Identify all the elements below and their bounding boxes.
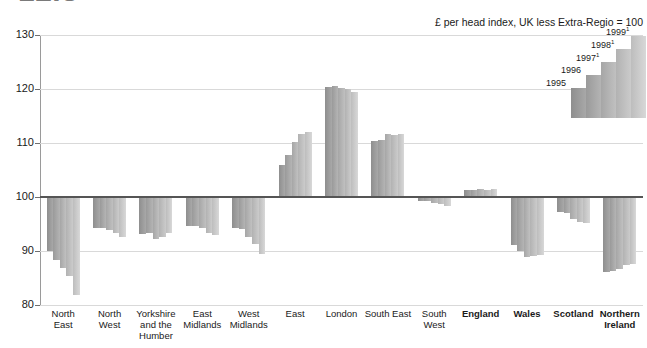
y-axis-tick-label: 90 bbox=[2, 245, 34, 256]
baseline-100 bbox=[40, 196, 643, 198]
chart-legend: 19951996199711998119991 bbox=[541, 36, 643, 118]
bar bbox=[113, 197, 120, 233]
bar bbox=[232, 197, 239, 228]
bar bbox=[66, 197, 73, 276]
bar bbox=[332, 86, 339, 197]
bar bbox=[438, 197, 445, 204]
category-label: NorthernIreland bbox=[591, 308, 647, 330]
bar bbox=[186, 197, 193, 226]
bar bbox=[73, 197, 80, 295]
bar bbox=[385, 134, 392, 197]
legend-swatch bbox=[601, 62, 616, 118]
legend-swatch bbox=[586, 75, 601, 118]
bar bbox=[239, 197, 246, 229]
bar bbox=[577, 197, 584, 222]
bar bbox=[610, 197, 617, 271]
bar-group bbox=[279, 35, 312, 305]
y-axis-tick-label: 100 bbox=[2, 191, 34, 202]
legend-label: 19981 bbox=[591, 39, 614, 50]
bar bbox=[279, 165, 286, 197]
bar bbox=[53, 197, 60, 260]
bar-group bbox=[47, 35, 80, 305]
bar bbox=[524, 197, 531, 257]
bar bbox=[338, 88, 345, 197]
bar-group bbox=[418, 35, 451, 305]
bar bbox=[139, 197, 146, 234]
y-axis-tick bbox=[35, 305, 40, 306]
bar bbox=[371, 141, 378, 197]
chart-figure: 12.3 £ per head index, UK less Extra-Reg… bbox=[0, 0, 647, 348]
bar bbox=[398, 134, 405, 197]
legend-label: 1996 bbox=[561, 65, 581, 75]
bar bbox=[530, 197, 537, 256]
legend-swatch bbox=[616, 49, 631, 118]
bar bbox=[623, 197, 630, 265]
y-axis-tick bbox=[35, 143, 40, 144]
bar bbox=[537, 197, 544, 255]
bar bbox=[630, 197, 637, 264]
bar bbox=[252, 197, 259, 244]
legend-label: 19991 bbox=[606, 26, 629, 37]
bar bbox=[564, 197, 571, 213]
bar bbox=[100, 197, 107, 228]
bar bbox=[47, 197, 54, 251]
bar-group bbox=[232, 35, 265, 305]
bar bbox=[146, 197, 153, 233]
bar bbox=[345, 89, 352, 197]
bar bbox=[192, 197, 199, 226]
bar bbox=[444, 197, 451, 206]
y-axis-tick-label: 80 bbox=[2, 299, 34, 310]
legend-swatch bbox=[631, 36, 646, 118]
legend-label: 1995 bbox=[546, 78, 566, 88]
y-axis-tick bbox=[35, 35, 40, 36]
bar bbox=[603, 197, 610, 272]
bar bbox=[616, 197, 623, 269]
bar-group bbox=[186, 35, 219, 305]
bar bbox=[93, 197, 100, 228]
category-axis-labels: NorthEastNorthWestYorkshireand theHumber… bbox=[40, 308, 643, 348]
y-axis-line bbox=[40, 35, 41, 305]
bar bbox=[259, 197, 266, 254]
y-axis-tick bbox=[35, 89, 40, 90]
bar-group bbox=[93, 35, 126, 305]
bar bbox=[557, 197, 564, 212]
bar bbox=[106, 197, 113, 230]
bar bbox=[378, 140, 385, 197]
bar bbox=[212, 197, 219, 235]
bar bbox=[285, 155, 292, 197]
gridline bbox=[40, 305, 643, 306]
legend-label: 19971 bbox=[576, 52, 599, 63]
bar bbox=[517, 197, 524, 251]
y-axis-tick-label: 130 bbox=[2, 29, 34, 40]
bar bbox=[570, 197, 577, 219]
bar bbox=[391, 135, 398, 197]
y-axis-tick bbox=[35, 251, 40, 252]
bar bbox=[351, 92, 358, 197]
bar bbox=[119, 197, 126, 237]
y-axis-tick-label: 110 bbox=[2, 137, 34, 148]
bar-group bbox=[371, 35, 404, 305]
figure-title: 12.3 bbox=[18, 0, 78, 8]
bar-group bbox=[325, 35, 358, 305]
bar bbox=[153, 197, 160, 239]
bar bbox=[305, 132, 312, 197]
bar-group bbox=[139, 35, 172, 305]
bar bbox=[60, 197, 67, 268]
bar bbox=[298, 134, 305, 197]
y-axis-tick-label: 120 bbox=[2, 83, 34, 94]
bar bbox=[159, 197, 166, 237]
bar bbox=[206, 197, 213, 233]
bar bbox=[511, 197, 518, 245]
bar-group bbox=[511, 35, 544, 305]
bar bbox=[325, 87, 332, 197]
bar bbox=[166, 197, 173, 233]
bar bbox=[583, 197, 590, 223]
bar bbox=[245, 197, 252, 237]
bar bbox=[292, 142, 299, 197]
bar-group bbox=[464, 35, 497, 305]
legend-swatch bbox=[571, 88, 586, 118]
bar bbox=[199, 197, 206, 228]
